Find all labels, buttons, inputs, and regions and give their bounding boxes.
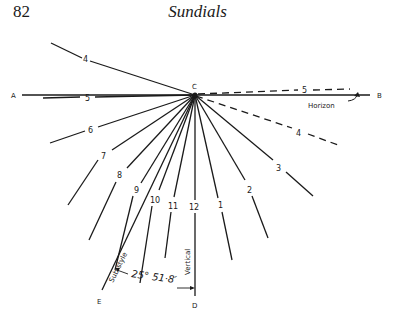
hour-label-8: 8 bbox=[117, 171, 122, 180]
hour-line-5-segment-outer bbox=[43, 97, 80, 98]
point-c-label: C bbox=[192, 83, 197, 91]
hour-label-4-right: 4 bbox=[296, 129, 301, 138]
hour-line-4-segment-outer bbox=[51, 43, 82, 58]
hour-line-11-segment-inner bbox=[174, 95, 195, 197]
hour-line-2-segment-inner bbox=[195, 95, 245, 180]
hour-line-9-segment-inner bbox=[141, 95, 195, 183]
sundial-diagram: A B C 4 5 6 7 8 9 E 10 11 12 D 1 2 3 bbox=[0, 0, 395, 320]
hour-line-6-segment-outer bbox=[50, 131, 85, 143]
dashed-hour-line-5-outer bbox=[313, 89, 350, 90]
hour-label-5-left: 5 bbox=[85, 94, 90, 103]
hour-line-7-segment-outer bbox=[68, 160, 98, 205]
hour-label-10: 10 bbox=[150, 196, 160, 205]
dashed-hour-line-5-inner bbox=[198, 90, 298, 94]
hour-label-11: 11 bbox=[168, 202, 178, 211]
hour-label-1: 1 bbox=[218, 201, 223, 210]
hour-line-3-segment-outer bbox=[286, 172, 313, 196]
hour-line-11-segment-outer bbox=[165, 212, 171, 258]
point-e-label: E bbox=[97, 298, 101, 306]
point-b-label: B bbox=[377, 92, 382, 100]
hour-label-12: 12 bbox=[189, 203, 199, 212]
hour-label-9: 9 bbox=[134, 186, 139, 195]
hour-line-1-segment-outer bbox=[222, 212, 232, 260]
hour-label-4-left: 4 bbox=[83, 55, 88, 64]
hour-label-2: 2 bbox=[247, 186, 252, 195]
angle-label: 25° 51·8′ bbox=[131, 268, 178, 285]
substyle-line-ce bbox=[102, 95, 195, 290]
hour-line-10-segment-inner bbox=[159, 95, 195, 190]
horizon-label: Horizon bbox=[308, 102, 335, 110]
hour-line-8-segment-outer bbox=[89, 182, 116, 240]
center-point-c bbox=[193, 93, 198, 98]
vertical-label: Vertical bbox=[184, 249, 192, 275]
hour-line-2-segment-outer bbox=[252, 196, 268, 238]
point-a-label: A bbox=[11, 92, 16, 100]
angle-arrow-right-icon bbox=[190, 286, 195, 290]
point-d-label: D bbox=[192, 302, 197, 310]
dashed-hour-line-4-outer bbox=[308, 134, 338, 145]
hour-label-3: 3 bbox=[276, 164, 281, 173]
hour-line-4-segment-inner bbox=[90, 61, 195, 95]
hour-label-7: 7 bbox=[101, 152, 106, 161]
hour-label-5-right: 5 bbox=[302, 86, 307, 95]
dashed-hour-line-4-inner bbox=[196, 96, 292, 128]
hour-label-6: 6 bbox=[88, 126, 93, 135]
